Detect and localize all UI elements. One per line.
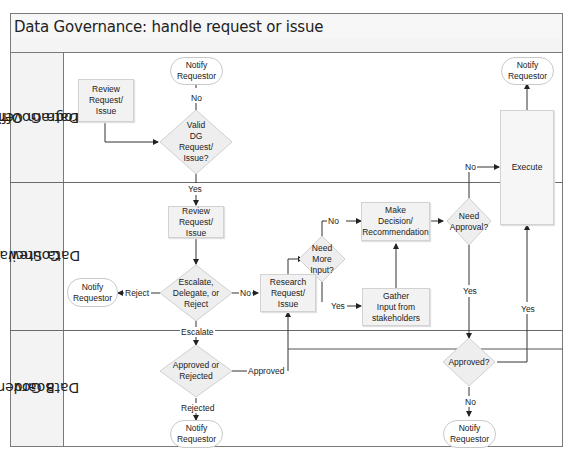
node-text: Requestor xyxy=(508,71,547,82)
node-text: Notify xyxy=(177,423,216,434)
node-text: Issue xyxy=(89,106,123,117)
edge-label-board-rejected: Rejected xyxy=(180,403,216,413)
node-text: Need xyxy=(310,243,334,254)
process-research-request[interactable]: ResearchRequest/Issue xyxy=(260,274,316,312)
node-text: DG xyxy=(179,131,213,142)
node-text: Issue? xyxy=(179,153,213,164)
edge-label-valid-yes: Yes xyxy=(187,184,203,194)
node-text: Review xyxy=(179,206,213,217)
node-text: Need xyxy=(450,211,488,222)
node-text: Delegate, or xyxy=(173,288,219,299)
node-text: Notify xyxy=(177,60,216,71)
edge-label-approved-yes: Yes xyxy=(520,304,536,314)
node-text: Input from xyxy=(372,302,420,313)
node-text: Gather xyxy=(372,291,420,302)
node-text: Issue xyxy=(179,228,213,239)
node-text: Notify xyxy=(73,282,112,293)
node-text: Make xyxy=(362,205,429,216)
edge-label-approved-no: No xyxy=(464,397,477,407)
decision-approved-or-rejected[interactable]: Approved orRejected xyxy=(160,356,232,386)
node-text: Input? xyxy=(310,265,334,276)
node-text: Approved or xyxy=(173,360,219,371)
node-text: Request/ xyxy=(270,288,306,299)
node-text: Approval? xyxy=(450,222,488,233)
edge-label-escalate-no: No xyxy=(239,288,252,298)
node-text: Research xyxy=(270,277,306,288)
decision-escalate-delegate-reject[interactable]: Escalate,Delegate, orReject xyxy=(160,271,232,315)
edge-label-more-input-yes: Yes xyxy=(330,301,346,311)
node-text: Notify xyxy=(450,423,489,434)
node-text: More xyxy=(310,254,334,265)
node-text: Decision/ xyxy=(362,216,429,227)
edge-label-valid-no: No xyxy=(190,93,203,103)
node-text: Recommendation xyxy=(362,227,429,238)
process-review-request-po[interactable]: ReviewRequest/Issue xyxy=(78,79,134,122)
node-text: Requestor xyxy=(177,71,216,82)
node-text: Reject xyxy=(173,299,219,310)
terminal-notify-requestor-execute[interactable]: NotifyRequestor xyxy=(501,57,554,85)
decision-valid-dg-request[interactable]: ValidDGRequest/Issue? xyxy=(160,116,232,168)
node-text: Approved? xyxy=(448,357,489,368)
process-review-request-sc[interactable]: ReviewRequest/Issue xyxy=(168,206,224,238)
node-text: Request/ xyxy=(89,95,123,106)
edge-label-need-approval-no: No xyxy=(464,162,477,172)
edge-label-reject: Reject xyxy=(124,288,150,298)
node-text: Valid xyxy=(179,120,213,131)
edge-label-need-approval-yes: Yes xyxy=(462,286,478,296)
node-text: Requestor xyxy=(73,293,112,304)
edge-label-more-input-no: No xyxy=(327,216,340,226)
decision-approved[interactable]: Approved? xyxy=(443,355,495,369)
decision-need-more-input[interactable]: NeedMoreInput? xyxy=(299,241,345,277)
node-text: stakeholders xyxy=(372,313,420,324)
edge-label-escalate: Escalate xyxy=(180,327,215,337)
terminal-notify-requestor-reject[interactable]: NotifyRequestor xyxy=(67,278,118,307)
terminal-notify-requestor-po[interactable]: NotifyRequestor xyxy=(170,57,223,85)
node-text: Escalate, xyxy=(173,277,219,288)
node-text: Requestor xyxy=(450,434,489,445)
process-execute[interactable]: Execute xyxy=(500,110,554,225)
node-text: Review xyxy=(89,84,123,95)
decision-need-approval[interactable]: NeedApproval? xyxy=(447,208,491,235)
node-text: Rejected xyxy=(173,371,219,382)
edge-label-board-approved: Approved xyxy=(247,366,285,376)
node-text: Issue xyxy=(270,299,306,310)
node-text: Request/ xyxy=(179,142,213,153)
process-make-decision[interactable]: MakeDecision/Recommendation xyxy=(361,202,430,241)
terminal-notify-requestor-not-approved[interactable]: NotifyRequestor xyxy=(443,420,496,448)
node-text: Notify xyxy=(508,60,547,71)
terminal-notify-requestor-rejected[interactable]: NotifyRequestor xyxy=(170,420,223,448)
node-text: Request/ xyxy=(179,217,213,228)
node-text: Execute xyxy=(512,162,543,173)
process-gather-input[interactable]: GatherInput fromstakeholders xyxy=(362,288,430,326)
node-text: Requestor xyxy=(177,434,216,445)
